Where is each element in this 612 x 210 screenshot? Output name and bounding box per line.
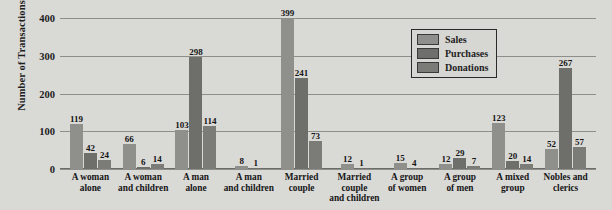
bar-column: 241 [295,18,308,169]
bar[interactable] [123,144,136,169]
bar[interactable] [295,78,308,169]
bar-group: 5226757 [539,18,592,169]
bar[interactable] [559,68,572,169]
bar-value-label: 6 [141,158,146,167]
x-axis-category-label: A woman and children [117,172,170,204]
bar[interactable] [175,130,188,169]
bar[interactable] [467,166,480,169]
bar-value-label: 114 [203,117,216,126]
bar-value-label: 14 [522,155,531,164]
bar-group: 39924173 [275,18,328,169]
bar-column: 298 [189,18,202,169]
legend-label-sales: Sales [445,34,467,45]
legend-item-sales[interactable]: Sales [417,34,488,45]
bar-value-label: 66 [125,135,134,144]
bar-column: 42 [84,18,97,169]
legend-swatch-purchases [417,48,439,59]
bar-column: 12 [341,18,354,169]
bar-column: 57 [573,18,586,169]
bar-value-label: 399 [281,9,295,18]
legend-label-donations: Donations [445,62,488,73]
bar[interactable] [137,167,150,169]
bar-value-label: 12 [343,155,352,164]
y-axis-tick-label: 300 [39,50,55,61]
bar-group: 1194224 [64,18,117,169]
bar-value-label: 1 [254,159,259,168]
bar-column: 114 [203,18,216,169]
legend-label-purchases: Purchases [445,48,488,59]
y-axis-tick-label: 400 [39,13,55,24]
bar[interactable] [203,126,216,169]
bar-column: 24 [98,18,111,169]
bar-value-label: 20 [508,152,517,161]
bar-value-label: 4 [412,159,417,168]
bar-group: 81 [222,18,275,169]
bar[interactable] [70,124,83,169]
bar[interactable] [394,163,407,169]
bar-value-label: 15 [396,154,405,163]
legend-item-donations[interactable]: Donations [417,62,488,73]
bar-value-label: 52 [547,140,556,149]
bar-value-label: 103 [175,121,189,130]
y-axis-tick-label: 0 [50,164,55,175]
bar-value-label: 267 [559,59,573,68]
bar[interactable] [545,149,558,169]
bar[interactable] [281,18,294,169]
bar[interactable] [408,168,421,170]
bar[interactable] [98,160,111,169]
bar-column: 14 [151,18,164,169]
bar[interactable] [309,141,322,169]
chart-legend: Sales Purchases Donations [411,29,497,78]
bar-column: 119 [70,18,83,169]
bar-value-label: 14 [153,155,162,164]
x-axis-category-label: Married couple [275,172,328,204]
bar-value-label: 57 [575,138,584,147]
bar[interactable] [355,168,368,170]
bar-column: 1 [355,18,368,169]
bar-value-label: 73 [311,132,320,141]
bar[interactable] [453,158,466,169]
legend-swatch-sales [417,34,439,45]
bar-column: 267 [559,18,572,169]
bar[interactable] [235,166,248,169]
bar-column: 103 [175,18,188,169]
bar[interactable] [506,161,519,169]
bar-column: 15 [394,18,407,169]
x-axis-category-label: A group of women [381,172,434,204]
bar-column: 14 [520,18,533,169]
bar-column: 1 [249,18,262,169]
x-axis-labels: A woman aloneA woman and childrenA man a… [60,172,596,204]
bar[interactable] [249,168,262,170]
legend-swatch-donations [417,62,439,73]
bar-column: 73 [309,18,322,169]
bar-column: 66 [123,18,136,169]
bar[interactable] [84,153,97,169]
x-axis-category-label: A group of men [434,172,487,204]
bar[interactable] [492,123,505,169]
bar[interactable] [189,57,202,169]
plot-area: 0100200300400 11942246661410329811481399… [60,18,596,169]
x-axis-category-label: A man alone [170,172,223,204]
bar-column: 52 [545,18,558,169]
x-axis-category-label: A mixed group [486,172,539,204]
bar-value-label: 1 [359,159,364,168]
y-axis-tick-label: 100 [39,126,55,137]
bar[interactable] [573,147,586,169]
bar-value-label: 241 [295,69,309,78]
bar-groups: 1194224666141032981148139924173121154122… [60,18,596,169]
bar-value-label: 7 [472,157,477,166]
bar[interactable] [341,164,354,169]
bar[interactable] [151,164,164,169]
bar-value-label: 12 [441,155,450,164]
bar[interactable] [520,164,533,169]
y-axis-tick-label: 200 [39,88,55,99]
bar-value-label: 29 [455,149,464,158]
bar-value-label: 123 [492,114,506,123]
bar-value-label: 8 [240,157,245,166]
bar[interactable] [439,164,452,169]
legend-item-purchases[interactable]: Purchases [417,48,488,59]
bar-group: 66614 [117,18,170,169]
bar-value-label: 298 [189,48,203,57]
gridline [60,169,596,170]
bar-group: 121 [328,18,381,169]
